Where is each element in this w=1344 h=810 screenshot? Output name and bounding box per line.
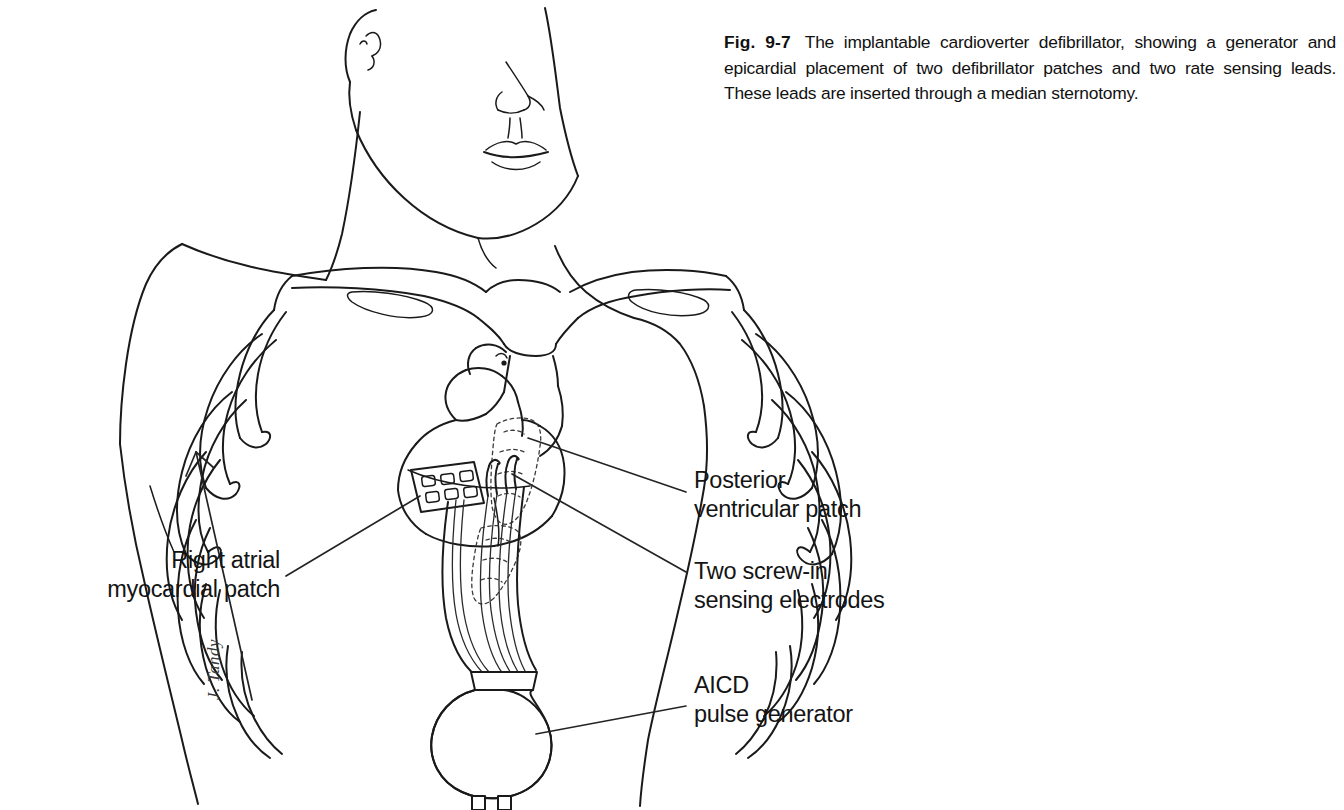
artist-signature: J. Tandy bbox=[204, 639, 224, 700]
leader-aicd-pulse-generator bbox=[536, 706, 686, 734]
anatomical-illustration bbox=[0, 0, 1344, 810]
leader-screw-in-electrodes bbox=[512, 474, 686, 572]
head-and-neck-outline bbox=[326, 8, 634, 318]
label-aicd-pulse-generator: AICD pulse generator bbox=[694, 671, 853, 728]
ribcage-left bbox=[167, 310, 286, 758]
aicd-pulse-generator bbox=[431, 672, 551, 810]
lead-wires bbox=[442, 487, 536, 676]
label-two-screw-in-sensing-electrodes: Two screw-in sensing electrodes bbox=[694, 557, 885, 614]
clavicle-and-sternum bbox=[274, 268, 744, 392]
posterior-ventricular-patch bbox=[472, 418, 541, 604]
label-posterior-ventricular-patch: Posterior ventricular patch bbox=[694, 466, 861, 523]
leader-posterior-ventricular-patch bbox=[528, 438, 686, 492]
leader-right-atrial-patch bbox=[286, 496, 420, 576]
label-right-atrial-myocardial-patch: Right atrial myocardial patch bbox=[24, 546, 280, 603]
figure-caption: Fig. 9-7The implantable cardioverter def… bbox=[724, 30, 1336, 107]
figure-number: Fig. 9-7 bbox=[724, 32, 791, 52]
figure-caption-text: The implantable cardioverter defibrillat… bbox=[724, 32, 1336, 103]
figure-page: Fig. 9-7The implantable cardioverter def… bbox=[0, 0, 1344, 810]
great-vessels bbox=[445, 345, 562, 456]
